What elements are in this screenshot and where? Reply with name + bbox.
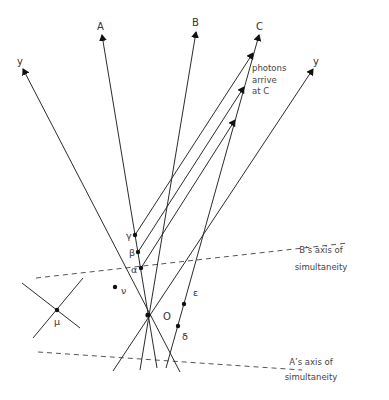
label-gamma: γ	[126, 230, 132, 241]
photon-beta	[138, 87, 244, 252]
event-nu	[113, 285, 117, 289]
mu-axis-2	[33, 278, 83, 338]
photons-annotation-2: arrive	[252, 75, 277, 85]
label-origin: O	[163, 311, 171, 322]
label-y-left: y	[17, 56, 23, 67]
label-epsilon: ε	[193, 287, 198, 298]
label-beta: β	[129, 247, 135, 258]
event-gamma	[133, 233, 137, 237]
a-axis-label-1: A’s axis of	[289, 357, 334, 367]
label-nu: ν	[121, 285, 126, 296]
event-origin	[145, 312, 150, 317]
b-axis-label-2: simultaneity	[295, 262, 348, 272]
worldline-c	[166, 35, 259, 368]
event-alpha	[139, 266, 143, 270]
label-y-right: y	[313, 56, 319, 67]
event-delta	[176, 324, 180, 328]
label-a: A	[97, 21, 104, 32]
mu-axis-1	[22, 283, 80, 328]
photon-alpha	[141, 120, 235, 268]
photons-annotation-3: at C	[252, 86, 269, 96]
worldline-y-left	[23, 69, 180, 372]
label-c: C	[256, 21, 263, 32]
photon-gamma	[135, 53, 253, 235]
event-epsilon	[182, 302, 186, 306]
event-beta	[136, 250, 140, 254]
label-delta: δ	[182, 331, 188, 342]
event-mu	[55, 308, 59, 312]
label-mu: μ	[54, 316, 60, 327]
label-alpha: α	[131, 264, 137, 275]
b-axis-label-1: B’s axis of	[299, 245, 344, 255]
a-axis-label-2: simultaneity	[285, 372, 338, 382]
spacetime-diagram: y A B C y photons arrive at C B’s axis o…	[0, 0, 389, 400]
label-b: B	[192, 17, 199, 28]
photons-annotation-1: photons	[252, 63, 287, 73]
